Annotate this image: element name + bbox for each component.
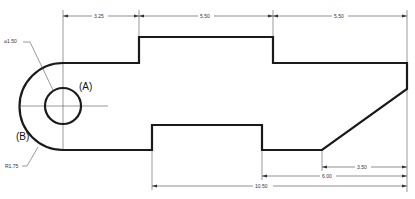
top-dimension-line <box>63 12 407 20</box>
technical-drawing <box>0 0 415 199</box>
part-outline <box>19 37 407 150</box>
bottom-dimension-lines <box>152 163 407 190</box>
leader-line <box>27 147 38 166</box>
